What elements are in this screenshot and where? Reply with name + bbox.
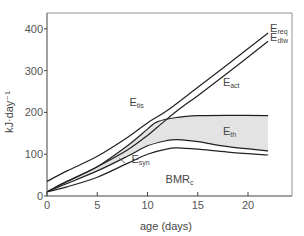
chart: 05101520 0100200300400 EreqEdlwEtisEactE… xyxy=(0,0,304,236)
x-tick-label: 10 xyxy=(141,199,153,211)
y-tick-label: 200 xyxy=(25,106,43,118)
y-axis-label: kJ·day⁻¹ xyxy=(3,91,15,133)
series-line-bmr-c xyxy=(47,148,268,192)
y-ticks: 0100200300400 xyxy=(25,23,47,202)
annotation-e-tis: Etis xyxy=(129,96,144,109)
annotation-bmr-c: BMRc xyxy=(166,173,194,186)
x-tick-label: 15 xyxy=(192,199,204,211)
x-tick-label: 0 xyxy=(44,199,50,211)
y-tick-label: 100 xyxy=(25,148,43,160)
plot-frame xyxy=(47,13,292,196)
x-ticks: 05101520 xyxy=(44,192,254,211)
x-tick-label: 5 xyxy=(94,199,100,211)
x-axis-label: age (days) xyxy=(140,220,192,232)
curves xyxy=(47,33,268,192)
series-line-e-syn-bmr-c xyxy=(47,139,268,191)
annotations: EreqEdlwEtisEactEthEsynBMRc xyxy=(119,22,289,187)
y-tick-label: 0 xyxy=(37,190,43,202)
y-tick-label: 400 xyxy=(25,23,43,35)
annotation-e-act: Eact xyxy=(223,76,240,89)
series-line-e-req xyxy=(47,33,268,181)
y-tick-label: 300 xyxy=(25,65,43,77)
x-tick-label: 20 xyxy=(242,199,254,211)
